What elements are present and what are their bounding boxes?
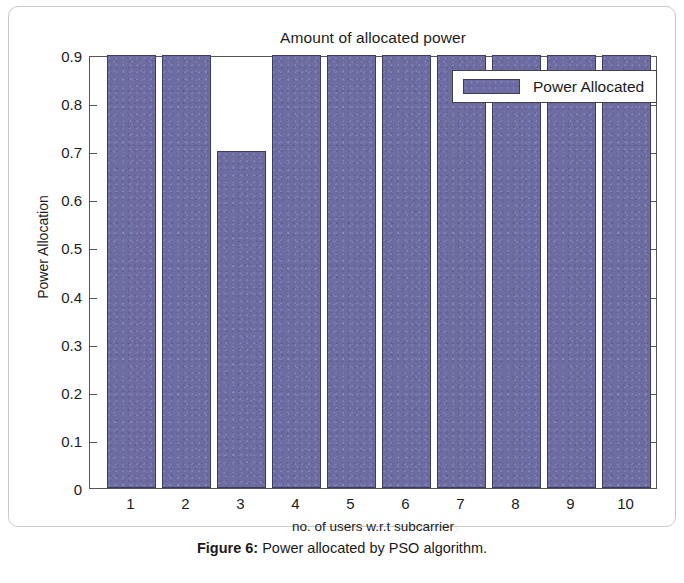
- bar: [107, 55, 156, 488]
- y-axis-tick-mark: [90, 153, 97, 154]
- y-axis-tick-label: 0: [30, 481, 82, 498]
- y-axis-tick-mark: [90, 442, 97, 443]
- bar: [272, 55, 321, 488]
- bar: [382, 55, 431, 488]
- figure-caption-text: Power allocated by PSO algorithm.: [258, 540, 487, 556]
- bar: [327, 55, 376, 488]
- bar: [602, 55, 651, 488]
- legend-label-power-allocated: Power Allocated: [533, 78, 644, 96]
- y-axis-tick-label: 0.2: [30, 384, 82, 401]
- y-axis-tick-label: 0.1: [30, 432, 82, 449]
- bar: [217, 151, 266, 488]
- y-axis-tick-label: 0.8: [30, 96, 82, 113]
- x-axis-tick-label: 5: [321, 495, 381, 512]
- y-axis-tick-mark: [90, 346, 97, 347]
- y-axis-tick-mark: [90, 105, 97, 106]
- y-axis-tick-mark: [90, 249, 97, 250]
- x-axis-tick-label: 1: [101, 495, 161, 512]
- x-axis-tick-label: 8: [486, 495, 546, 512]
- legend-swatch-power-allocated: [463, 79, 520, 94]
- bar: [162, 55, 211, 488]
- bar: [437, 55, 486, 488]
- chart-title: Amount of allocated power: [89, 29, 657, 47]
- chart-legend: Power Allocated: [452, 70, 657, 103]
- x-axis-tick-label: 9: [541, 495, 601, 512]
- figure-caption: Figure 6: Power allocated by PSO algorit…: [0, 540, 684, 556]
- figure-caption-label: Figure 6:: [197, 540, 258, 556]
- bar-chart: Amount of allocated power 0.90.80.70.60.…: [0, 0, 684, 527]
- x-axis-tick-label: 4: [266, 495, 326, 512]
- y-axis-tick-mark: [90, 394, 97, 395]
- bar: [547, 55, 596, 488]
- y-axis-tick-mark: [90, 201, 97, 202]
- x-axis-tick-label: 10: [596, 495, 656, 512]
- x-axis-tick-label: 3: [211, 495, 271, 512]
- x-axis-tick-label: 2: [156, 495, 216, 512]
- y-axis-tick-mark: [90, 298, 97, 299]
- plot-area: [89, 56, 657, 489]
- x-axis-tick-label: 7: [431, 495, 491, 512]
- bar: [492, 55, 541, 488]
- y-axis-label: Power Allocation: [35, 147, 51, 347]
- x-axis-label: no. of users w.r.t subcarrier: [89, 519, 657, 534]
- y-axis-tick-label: 0.9: [30, 48, 82, 65]
- x-axis-tick-label: 6: [376, 495, 436, 512]
